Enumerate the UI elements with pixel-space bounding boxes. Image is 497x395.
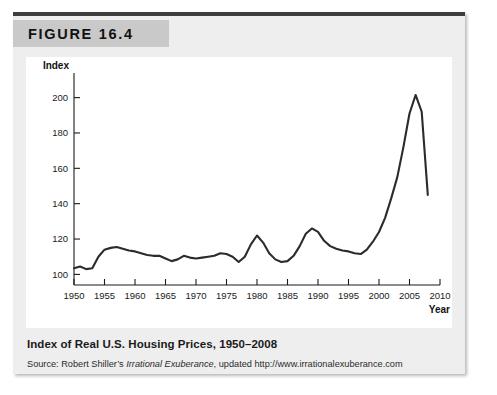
- svg-text:140: 140: [52, 198, 68, 209]
- source-prefix: Source: Robert Shiller’s: [27, 359, 126, 369]
- figure-card: FIGURE 16.4 100120140160180200 195019551…: [13, 12, 465, 374]
- svg-text:200: 200: [52, 92, 68, 103]
- svg-text:2010: 2010: [429, 290, 450, 301]
- svg-text:2000: 2000: [368, 290, 389, 301]
- source-suffix: , updated http://www.irrationalexuberanc…: [214, 359, 403, 369]
- caption-block: Index of Real U.S. Housing Prices, 1950–…: [27, 338, 447, 369]
- x-axis-title: Year: [429, 304, 450, 315]
- svg-text:2005: 2005: [399, 290, 420, 301]
- svg-text:180: 180: [52, 127, 68, 138]
- source-book-title: Irrational Exuberance: [126, 359, 213, 369]
- svg-text:1950: 1950: [63, 290, 84, 301]
- svg-text:120: 120: [52, 233, 68, 244]
- price-index-line: [74, 95, 428, 269]
- figure-source: Source: Robert Shiller’s Irrational Exub…: [27, 359, 447, 369]
- y-axis-title: Index: [43, 60, 70, 71]
- figure-number-label: FIGURE 16.4: [28, 26, 134, 42]
- y-axis: 100120140160180200: [52, 73, 80, 285]
- svg-text:1990: 1990: [307, 290, 328, 301]
- svg-text:1955: 1955: [94, 290, 115, 301]
- svg-text:1960: 1960: [124, 290, 145, 301]
- svg-text:100: 100: [52, 269, 68, 280]
- figure-caption: Index of Real U.S. Housing Prices, 1950–…: [27, 338, 447, 350]
- svg-text:160: 160: [52, 163, 68, 174]
- housing-price-line-chart: 100120140160180200 195019551960196519701…: [26, 57, 452, 328]
- svg-text:1995: 1995: [338, 290, 359, 301]
- svg-text:1985: 1985: [277, 290, 298, 301]
- svg-text:1975: 1975: [216, 290, 237, 301]
- svg-text:1970: 1970: [185, 290, 206, 301]
- x-axis: 1950195519601965197019751980198519901995…: [63, 279, 450, 301]
- chart-plot-panel: 100120140160180200 195019551960196519701…: [26, 57, 452, 328]
- svg-text:1965: 1965: [155, 290, 176, 301]
- svg-text:1980: 1980: [246, 290, 267, 301]
